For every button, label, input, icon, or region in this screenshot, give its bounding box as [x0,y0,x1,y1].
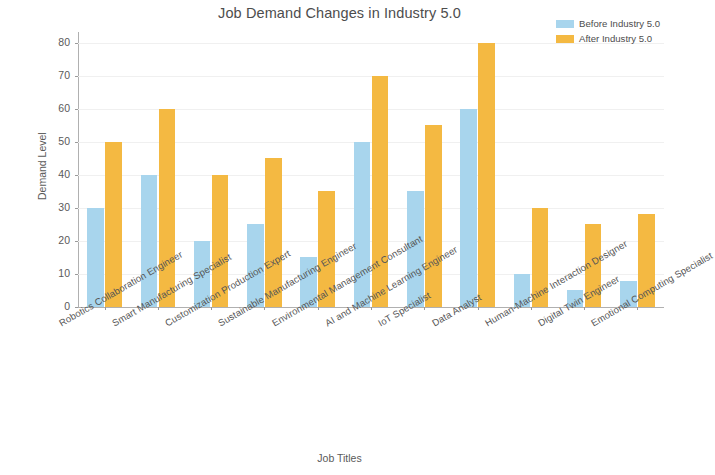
bar-after [425,125,442,307]
y-tick-label: 20 [40,234,70,246]
x-tick-mark [637,307,638,310]
legend-swatch-icon [556,20,574,28]
x-tick-mark [584,307,585,310]
y-tick-label: 60 [40,102,70,114]
x-tick-mark [318,307,319,310]
x-tick-mark [371,307,372,310]
x-tick-mark [264,307,265,310]
y-tick-label: 0 [40,300,70,312]
legend-item[interactable]: After Industry 5.0 [556,32,676,45]
bar-before [354,142,371,307]
bar-after [478,43,495,307]
x-tick-mark [424,307,425,310]
x-tick-mark [478,307,479,310]
bar-after [372,76,389,307]
y-tick-label: 10 [40,267,70,279]
y-tick-label: 70 [40,69,70,81]
y-tick-label: 50 [40,135,70,147]
x-tick-mark [105,307,106,310]
legend-swatch-icon [556,35,574,43]
legend-label: Before Industry 5.0 [579,18,660,29]
bar-after [159,109,176,307]
chart-legend: Before Industry 5.0After Industry 5.0 [556,17,676,47]
bar-before [460,109,477,307]
x-tick-mark [211,307,212,310]
legend-item[interactable]: Before Industry 5.0 [556,17,676,30]
legend-label: After Industry 5.0 [579,33,652,44]
y-tick-label: 80 [40,36,70,48]
x-tick-mark [531,307,532,310]
bar-before [141,175,158,307]
x-axis-label: Job Titles [0,452,679,464]
y-tick-label: 30 [40,201,70,213]
y-tick-label: 40 [40,168,70,180]
x-tick-mark [158,307,159,310]
